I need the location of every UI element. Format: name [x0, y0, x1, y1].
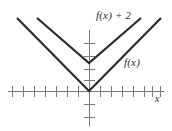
math-graph-figure: f(x) + 2 f(x) x: [0, 0, 172, 131]
curve-label-f-of-x: f(x): [124, 57, 140, 68]
curve-label-f-of-x-plus-2: f(x) + 2: [96, 10, 131, 21]
x-axis-label: x: [155, 94, 160, 104]
graph-canvas: [0, 0, 172, 131]
